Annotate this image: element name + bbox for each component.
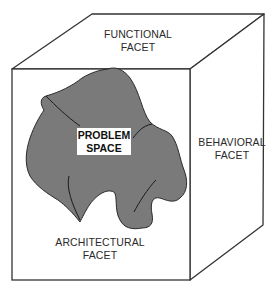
problem-space-label: PROBLEM SPACE [77,128,131,155]
architectural-facet-line1: ARCHITECTURAL [50,236,150,249]
behavioral-facet-label: BEHAVIORAL FACET [192,136,272,162]
problem-space-line2: SPACE [77,142,131,155]
behavioral-facet-line2: FACET [192,149,272,162]
architectural-facet-line2: FACET [50,249,150,262]
functional-facet-line2: FACET [88,41,188,54]
behavioral-facet-line1: BEHAVIORAL [192,136,272,149]
functional-facet-label: FUNCTIONAL FACET [88,28,188,54]
architectural-facet-label: ARCHITECTURAL FACET [50,236,150,262]
problem-space-line1: PROBLEM [77,129,131,142]
problem-space-cube-diagram: FUNCTIONAL FACET BEHAVIORAL FACET ARCHIT… [0,0,275,294]
functional-facet-line1: FUNCTIONAL [88,28,188,41]
